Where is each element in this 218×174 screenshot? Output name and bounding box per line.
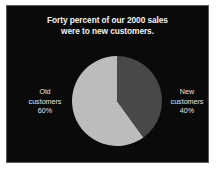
- slice-label-old-value: 60%: [17, 106, 74, 116]
- slice-label-old-customers: Old customers 60%: [17, 87, 74, 116]
- slice-label-old-line-1: Old: [17, 87, 74, 97]
- slice-label-new-value: 40%: [159, 106, 210, 116]
- slice-label-old-line-2: customers: [17, 97, 74, 107]
- slice-label-new-line-1: New: [159, 87, 210, 97]
- slide-panel: Forty percent of our 2000 sales were to …: [6, 5, 209, 163]
- title-line-1: Forty percent of our 2000 sales: [14, 15, 201, 26]
- title-line-2: were to new customers.: [14, 26, 201, 37]
- slice-label-new-customers: New customers 40%: [159, 87, 210, 116]
- page-title: Forty percent of our 2000 sales were to …: [14, 15, 201, 37]
- pie-chart: [70, 54, 164, 148]
- slice-label-new-line-2: customers: [159, 97, 210, 107]
